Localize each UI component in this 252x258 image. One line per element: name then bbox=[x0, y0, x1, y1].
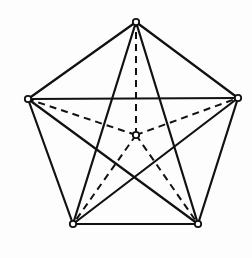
dashed-edge-center-right bbox=[136, 98, 238, 135]
solid-edge-top-bottom-right bbox=[136, 22, 198, 224]
graph-diagram bbox=[0, 0, 252, 258]
dashed-edge-center-bottom-left bbox=[73, 135, 136, 224]
dashed-edge-center-bottom-right bbox=[136, 135, 198, 224]
solid-edge-top-bottom-left bbox=[73, 22, 136, 224]
solid-edge-left-bottom-left bbox=[28, 99, 73, 224]
solid-edge-right-bottom-right bbox=[198, 98, 238, 224]
solid-edge-right-bottom-left bbox=[73, 98, 238, 224]
solid-edge-top-left bbox=[28, 22, 136, 99]
vertex-top bbox=[133, 19, 139, 25]
vertex-center bbox=[133, 132, 139, 138]
dashed-edge-center-left bbox=[28, 99, 136, 135]
vertex-bottom-right bbox=[195, 221, 201, 227]
pentagon-graph-figure bbox=[0, 0, 252, 258]
vertex-right bbox=[235, 95, 241, 101]
vertex-bottom-left bbox=[70, 221, 76, 227]
solid-edge-top-right bbox=[136, 22, 238, 98]
vertex-left bbox=[25, 96, 31, 102]
solid-edge-left-bottom-right bbox=[28, 99, 198, 224]
solid-edge-left-right bbox=[28, 98, 238, 99]
